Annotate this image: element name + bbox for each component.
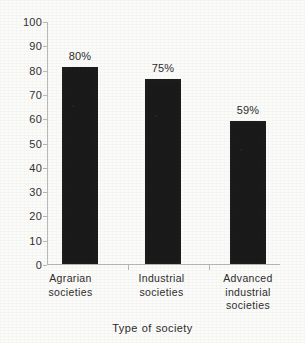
y-tick-label-20: 20: [29, 210, 42, 222]
x-category-label-line-1: Industrial: [113, 272, 210, 286]
x-category-label-line-1: Advanced: [198, 272, 298, 286]
x-category-label-advanced-industrial-societies: Advanced industrial societies: [198, 272, 298, 313]
x-axis-line: [47, 264, 280, 265]
x-category-label-industrial-societies: Industrial societies: [113, 272, 210, 299]
y-tick-label-100: 100: [23, 16, 42, 28]
x-category-label-agrarian-societies: Agrarian societies: [22, 272, 119, 299]
bar-value-advanced-industrial-societies: 59%: [237, 104, 260, 116]
x-category-label-line-2: societies: [113, 286, 210, 300]
y-tick-label-60: 60: [29, 113, 42, 125]
x-category-label-line-2: societies: [22, 286, 119, 300]
x-category-tick-1: [128, 265, 129, 270]
bar-value-agrarian-societies: 80%: [69, 50, 92, 62]
y-tick-label-70: 70: [29, 89, 42, 101]
y-tick-label-40: 40: [29, 162, 42, 174]
x-category-label-line-3: societies: [198, 299, 298, 313]
x-axis-title: Type of society: [0, 322, 305, 334]
x-category-label-line-2: industrial: [198, 286, 298, 300]
x-category-label-line-1: Agrarian: [22, 272, 119, 286]
x-category-tick-2: [209, 265, 210, 270]
y-tick-label-30: 30: [29, 186, 42, 198]
plot-area: 0 10 20 30 40 50 60 70: [47, 22, 280, 265]
y-axis-line: [47, 22, 48, 265]
bar-chart: 0 10 20 30 40 50 60 70: [0, 0, 305, 343]
y-tick-label-50: 50: [29, 138, 42, 150]
bar-advanced-industrial-societies: 59%: [230, 121, 266, 264]
bar-value-industrial-societies: 75%: [152, 62, 175, 74]
bar-industrial-societies: 75%: [145, 79, 181, 264]
y-tick-label-80: 80: [29, 65, 42, 77]
y-tick-label-10: 10: [29, 235, 42, 247]
y-tick-label-90: 90: [29, 40, 42, 52]
y-tick-label-0: 0: [36, 259, 42, 271]
bar-agrarian-societies: 80%: [62, 67, 98, 264]
